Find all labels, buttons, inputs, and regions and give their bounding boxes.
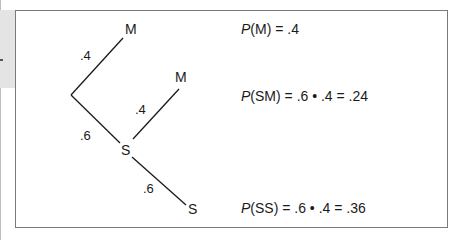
formula-arg: (SS) [250,200,278,216]
edge-root-to-s [71,95,120,143]
formula-rest: = .6 • .4 = .24 [281,88,368,104]
formula-arg: (M) [250,21,271,37]
prob-label-s-m: .4 [135,102,146,117]
formula-rest: = .6 • .4 = .36 [278,200,365,216]
formula-p-sm: P(SM) = .6 • .4 = .24 [241,88,368,104]
prob-label-root-s: .6 [80,128,91,143]
node-second-m: M [175,69,187,85]
formula-p-symbol: P [241,200,250,216]
formula-p-m: P(M) = .4 [241,21,299,37]
prob-label-s-s: .6 [143,181,154,196]
formula-p-symbol: P [241,88,250,104]
probability-tree: M S M S .4 .6 .4 .6 [0,0,462,240]
formula-rest: = .4 [271,21,299,37]
prob-label-root-m: .4 [80,48,91,63]
formula-arg: (SM) [250,88,280,104]
node-first-m: M [125,21,137,37]
edge-s-to-s [132,157,186,205]
formula-p-symbol: P [241,21,250,37]
edge-root-to-m [71,38,123,95]
node-second-s: S [188,201,197,217]
formula-p-ss: P(SS) = .6 • .4 = .36 [241,200,366,216]
node-first-s: S [121,142,130,158]
